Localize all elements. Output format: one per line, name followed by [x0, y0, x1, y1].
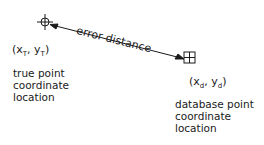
database-point-marker-icon [184, 52, 195, 63]
true-point-line-2: coordinate [13, 79, 69, 91]
database-point-coordinates: (xd, yd) [189, 76, 227, 92]
true-point-coordinates: (xT, yT) [12, 44, 49, 60]
true-point-marker-icon [37, 14, 53, 30]
database-point-line-2: coordinate [175, 110, 254, 122]
database-point-description: database point coordinate location [175, 98, 254, 134]
database-point-line-1: database point [175, 98, 254, 110]
true-point-line-3: location [13, 91, 69, 103]
true-point-line-1: true point [13, 67, 69, 79]
true-point-description: true point coordinate location [13, 67, 69, 103]
database-point-line-3: location [175, 122, 254, 134]
